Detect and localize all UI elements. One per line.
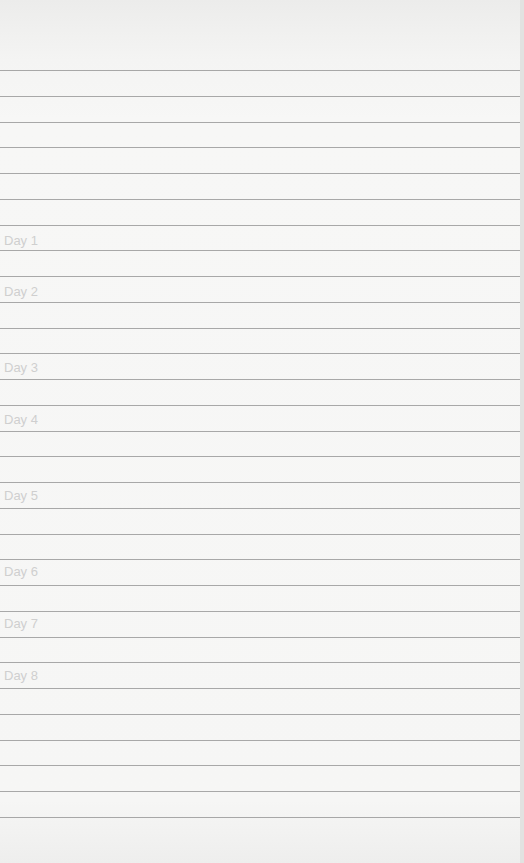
ruled-line [0,250,520,251]
ruled-line [0,765,520,766]
ruled-line [0,508,520,509]
ruled-line [0,688,520,689]
day-label: Day 4 [4,412,38,427]
day-label: Day 2 [4,284,38,299]
ruled-line [0,817,520,818]
ruled-line [0,405,520,406]
ruled-line [0,173,520,174]
ruled-line [0,585,520,586]
ruled-line [0,611,520,612]
ruled-line [0,199,520,200]
ruled-line [0,791,520,792]
ruled-line [0,276,520,277]
ruled-line [0,70,520,71]
day-label: Day 1 [4,233,38,248]
ruled-line [0,302,520,303]
notebook-page: Day 1Day 2Day 3Day 4Day 5Day 6Day 7Day 8 [0,0,524,863]
ruled-line [0,147,520,148]
ruled-line [0,96,520,97]
ruled-line [0,714,520,715]
ruled-line [0,534,520,535]
ruled-line [0,379,520,380]
ruled-line [0,662,520,663]
ruled-line [0,122,520,123]
day-label: Day 5 [4,488,38,503]
day-label: Day 7 [4,616,38,631]
ruled-line [0,431,520,432]
ruled-line [0,740,520,741]
page-edge [520,0,524,863]
ruled-line [0,225,520,226]
ruled-line [0,328,520,329]
ruled-line [0,482,520,483]
day-label: Day 6 [4,564,38,579]
day-label: Day 8 [4,668,38,683]
ruled-line [0,559,520,560]
day-label: Day 3 [4,360,38,375]
ruled-line [0,456,520,457]
ruled-line [0,637,520,638]
ruled-line [0,353,520,354]
